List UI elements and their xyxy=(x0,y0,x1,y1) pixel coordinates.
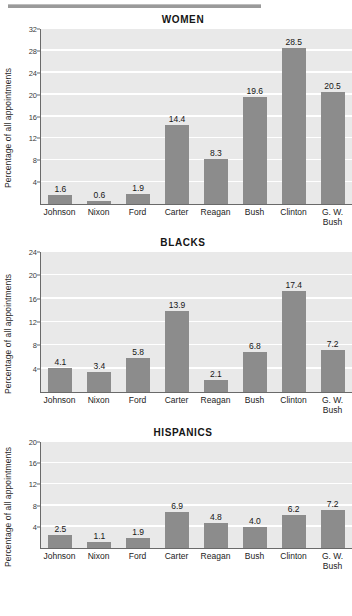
x-axis-label: Carter xyxy=(157,208,196,227)
bar[interactable]: 8.3 xyxy=(204,159,228,204)
bar[interactable]: 1.9 xyxy=(126,538,150,548)
x-axis-label: Johnson xyxy=(40,552,79,571)
bar[interactable]: 6.9 xyxy=(165,512,189,549)
x-axis-label: G. W. Bush xyxy=(313,208,352,227)
bar-value-label: 13.9 xyxy=(169,300,186,310)
x-axis-label: Reagan xyxy=(196,208,235,227)
x-axis-label: Nixon xyxy=(79,396,118,415)
bar-slot: 0.6 xyxy=(80,29,119,204)
x-axis-label: Bush xyxy=(235,208,274,227)
bar[interactable]: 4.0 xyxy=(243,527,267,548)
bar-slot: 2.1 xyxy=(197,252,236,392)
bar-value-label: 14.4 xyxy=(169,114,186,124)
bar[interactable]: 3.4 xyxy=(87,372,111,392)
bar[interactable]: 5.8 xyxy=(126,358,150,392)
x-axis-label: Ford xyxy=(118,208,157,227)
bar-value-label: 7.2 xyxy=(327,499,339,509)
bar-value-label: 6.8 xyxy=(249,341,261,351)
plot-column: 4.13.45.813.92.16.817.47.2 JohnsonNixonF… xyxy=(40,252,352,415)
plot-area: 4.13.45.813.92.16.817.47.2 xyxy=(40,252,352,393)
bar[interactable]: 1.9 xyxy=(126,194,150,204)
y-axis-label: Percentage of all appointments xyxy=(3,273,13,393)
x-axis-label: Clinton xyxy=(274,396,313,415)
bar-slot: 13.9 xyxy=(158,252,197,392)
bar-value-label: 8.3 xyxy=(210,148,222,158)
bars-group: 2.51.11.96.94.84.06.27.2 xyxy=(41,442,352,548)
bar-slot: 4.0 xyxy=(235,442,274,548)
bar[interactable]: 1.6 xyxy=(48,195,72,204)
x-axis-label: Nixon xyxy=(79,552,118,571)
bar[interactable]: 2.5 xyxy=(48,535,72,548)
chart-title: BLACKS xyxy=(0,237,352,248)
bar[interactable]: 19.6 xyxy=(243,97,267,204)
y-tick-label: 12 xyxy=(29,134,37,143)
y-axis-ticks: 48121620242832 xyxy=(16,29,40,204)
y-axis-label-wrap: Percentage of all appointments xyxy=(0,29,16,227)
bar[interactable]: 4.1 xyxy=(48,368,72,392)
y-axis-label: Percentage of all appointments xyxy=(3,446,13,566)
chart-title: WOMEN xyxy=(0,14,352,25)
bar-slot: 2.5 xyxy=(41,442,80,548)
bar-slot: 8.3 xyxy=(197,29,236,204)
bar[interactable]: 4.8 xyxy=(204,523,228,548)
bar[interactable]: 0.6 xyxy=(87,201,111,204)
bar-slot: 4.8 xyxy=(197,442,236,548)
bar-value-label: 6.2 xyxy=(288,504,300,514)
y-tick-label: 16 xyxy=(29,294,37,303)
bar[interactable]: 20.5 xyxy=(321,92,345,204)
y-tick-label: 32 xyxy=(29,25,37,34)
y-tick-label: 16 xyxy=(29,112,37,121)
y-tick-label: 12 xyxy=(29,318,37,327)
x-axis-label: Johnson xyxy=(40,396,79,415)
chart-body: Percentage of all appointments 481216202… xyxy=(0,29,352,227)
x-axis-labels: JohnsonNixonFordCarterReaganBushClintonG… xyxy=(40,396,352,415)
x-axis-labels: JohnsonNixonFordCarterReaganBushClintonG… xyxy=(40,552,352,571)
y-tick-label: 20 xyxy=(29,90,37,99)
x-axis-label: G. W. Bush xyxy=(313,396,352,415)
bar-slot: 5.8 xyxy=(119,252,158,392)
chart-gap xyxy=(0,227,352,237)
y-axis-label-wrap: Percentage of all appointments xyxy=(0,442,16,571)
bar-value-label: 1.1 xyxy=(93,531,105,541)
chart-gap xyxy=(0,415,352,427)
bar-slot: 6.9 xyxy=(158,442,197,548)
bar[interactable]: 7.2 xyxy=(321,350,345,392)
bar[interactable]: 6.2 xyxy=(282,515,306,548)
x-axis-label: Nixon xyxy=(79,208,118,227)
bar-slot: 1.9 xyxy=(119,29,158,204)
bars-group: 4.13.45.813.92.16.817.47.2 xyxy=(41,252,352,392)
x-axis-label: Johnson xyxy=(40,208,79,227)
bar[interactable]: 13.9 xyxy=(165,311,189,392)
bar-slot: 14.4 xyxy=(158,29,197,204)
bar[interactable]: 28.5 xyxy=(282,48,306,204)
bar-value-label: 4.1 xyxy=(55,357,67,367)
bar-value-label: 1.9 xyxy=(132,527,144,537)
bar-slot: 17.4 xyxy=(274,252,313,392)
chart-blacks: BLACKS Percentage of all appointments 48… xyxy=(0,237,352,415)
bar-value-label: 19.6 xyxy=(247,86,264,96)
chart-women: WOMEN Percentage of all appointments 481… xyxy=(0,14,352,227)
bar-slot: 6.2 xyxy=(274,442,313,548)
y-tick-label: 16 xyxy=(29,459,37,468)
bar-slot: 28.5 xyxy=(274,29,313,204)
bar[interactable]: 1.1 xyxy=(87,542,111,548)
bar-value-label: 0.6 xyxy=(93,190,105,200)
y-tick-label: 28 xyxy=(29,46,37,55)
bar[interactable]: 7.2 xyxy=(321,510,345,548)
bar-slot: 20.5 xyxy=(313,29,352,204)
bar-value-label: 2.5 xyxy=(55,524,67,534)
x-axis-label: Ford xyxy=(118,552,157,571)
bar[interactable]: 14.4 xyxy=(165,125,189,204)
bar-value-label: 6.9 xyxy=(171,501,183,511)
bar[interactable]: 2.1 xyxy=(204,380,228,392)
bar-value-label: 5.8 xyxy=(132,347,144,357)
plot-column: 2.51.11.96.94.84.06.27.2 JohnsonNixonFor… xyxy=(40,442,352,571)
bar[interactable]: 17.4 xyxy=(282,291,306,393)
x-axis-label: Carter xyxy=(157,396,196,415)
y-tick-label: 12 xyxy=(29,480,37,489)
y-tick-label: 24 xyxy=(29,248,37,257)
x-axis-label: Clinton xyxy=(274,552,313,571)
bar[interactable]: 6.8 xyxy=(243,352,267,392)
x-axis-label: Reagan xyxy=(196,396,235,415)
bar-value-label: 20.5 xyxy=(324,81,341,91)
